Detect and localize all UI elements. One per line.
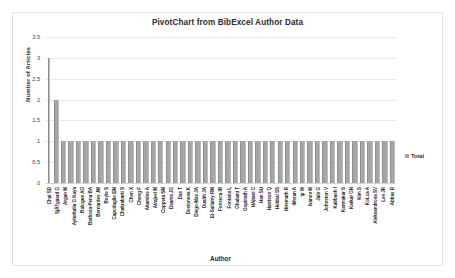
bar[interactable]	[195, 141, 200, 183]
bar[interactable]	[106, 141, 111, 183]
x-axis-tick-label: HAjtani C	[250, 187, 255, 207]
chart-legend: Total	[405, 153, 424, 159]
bar[interactable]	[225, 141, 230, 183]
bar[interactable]	[54, 100, 59, 183]
bar-slot	[97, 37, 104, 183]
bar[interactable]	[375, 141, 380, 183]
bar-slot	[60, 37, 67, 183]
x-label-slot: HAjtani C	[249, 185, 257, 253]
bar[interactable]	[121, 141, 126, 183]
bar[interactable]	[322, 141, 327, 183]
bar[interactable]	[151, 141, 156, 183]
bar[interactable]	[360, 141, 365, 183]
bar[interactable]	[345, 141, 350, 183]
x-label-slot: Kabbash I	[330, 185, 338, 253]
bar-slot	[217, 37, 224, 183]
bar-slot	[112, 37, 119, 183]
x-label-slot: Katkar GN	[347, 185, 355, 253]
y-axis-tick-label: 3	[37, 55, 40, 61]
bar[interactable]	[352, 141, 357, 183]
bar-slot	[239, 37, 246, 183]
x-label-slot: Ghalami T	[233, 185, 241, 253]
x-axis-tick-label: Coppeta SM	[161, 187, 166, 213]
x-label-slot: Jain G	[314, 185, 322, 253]
x-axis-tick-label: Bernardes JM	[96, 187, 101, 217]
bar[interactable]	[337, 141, 342, 183]
bar[interactable]	[83, 141, 88, 183]
bar-slot	[172, 37, 179, 183]
bar[interactable]	[382, 141, 387, 183]
bar[interactable]	[203, 141, 208, 183]
bar[interactable]	[307, 141, 312, 183]
bar[interactable]	[233, 141, 238, 183]
bar-slot	[179, 37, 186, 183]
bar[interactable]	[315, 141, 320, 183]
bar-series-total	[45, 37, 396, 183]
bar[interactable]	[166, 141, 171, 183]
bar-slot	[299, 37, 306, 183]
bar[interactable]	[76, 141, 81, 183]
bar-slot	[314, 37, 321, 183]
bar[interactable]	[240, 141, 245, 183]
bar[interactable]	[136, 141, 141, 183]
bar[interactable]	[248, 141, 253, 183]
bar[interactable]	[188, 141, 193, 183]
bar-slot	[329, 37, 336, 183]
x-axis-tick-label: Hebbal SS	[275, 187, 280, 209]
bar[interactable]	[390, 141, 395, 183]
bar[interactable]	[263, 141, 268, 183]
x-axis-tick-label: Alrajeel M	[153, 187, 158, 208]
bar[interactable]	[285, 141, 290, 183]
x-label-slot: Ayturkalia G Kaya	[69, 185, 77, 253]
bar[interactable]	[330, 141, 335, 183]
bar[interactable]	[270, 141, 275, 183]
bar-slot	[269, 37, 276, 183]
x-axis-tick-label: Ivanov M	[308, 187, 313, 206]
legend-square-marker	[405, 154, 409, 158]
x-axis-tick-label: Barbosa-Pena BA	[87, 187, 92, 225]
chart-container: PivotChart from BibExcel Author Data Num…	[12, 12, 443, 266]
bar[interactable]	[91, 141, 96, 183]
x-axis-tick-label: El-Sallamy RM	[210, 187, 215, 218]
bar[interactable]	[128, 141, 133, 183]
bar[interactable]	[278, 141, 283, 183]
bar[interactable]	[158, 141, 163, 183]
bar[interactable]	[61, 141, 66, 183]
y-axis-tick-label: 2	[37, 97, 40, 103]
x-axis-tick-label: Das T	[177, 187, 182, 199]
x-label-slot: Daama JG	[167, 185, 175, 253]
bar[interactable]	[48, 58, 50, 183]
x-axis-tick-label: Chakrabarti S	[120, 187, 125, 216]
bar[interactable]	[218, 141, 223, 183]
bar[interactable]	[98, 141, 103, 183]
bar[interactable]	[113, 141, 118, 183]
bar-slot	[336, 37, 343, 183]
bar[interactable]	[300, 141, 305, 183]
x-label-slot: Aleksandrova SV	[371, 185, 379, 253]
bar[interactable]	[68, 141, 73, 183]
x-label-slot: Das T	[176, 185, 184, 253]
y-axis-tick-label: 2.5	[32, 76, 40, 82]
x-axis-tick-label: Abbas R	[389, 187, 394, 205]
bar[interactable]	[143, 141, 148, 183]
bar[interactable]	[210, 141, 215, 183]
bar[interactable]	[173, 141, 178, 183]
x-axis-tick-label: Hiremath R	[283, 187, 288, 211]
x-label-slot: Coppeta SM	[159, 185, 167, 253]
bar-slot	[381, 37, 388, 183]
x-axis-tick-labels: Chai SDSjÃ¶gaard GArgan MAyturkalia G Ka…	[45, 185, 396, 253]
x-axis-tick-label: Lee JR	[381, 187, 386, 202]
x-label-slot: Dualth JA	[200, 185, 208, 253]
bar[interactable]	[255, 141, 260, 183]
x-axis-tick-label: Dualth JA	[202, 187, 207, 208]
bar-slot	[344, 37, 351, 183]
bar-slot	[247, 37, 254, 183]
x-label-slot: Ip W	[298, 185, 306, 253]
bar[interactable]	[367, 141, 372, 183]
x-axis-tick-label: Harrison Q	[267, 187, 272, 210]
x-label-slot: Abbas R	[388, 185, 396, 253]
x-axis-tick-label: Katkar GN	[348, 187, 353, 209]
bar[interactable]	[293, 141, 298, 183]
bar[interactable]	[180, 141, 185, 183]
x-axis-tick-label: Diego-Mas JA	[193, 187, 198, 217]
